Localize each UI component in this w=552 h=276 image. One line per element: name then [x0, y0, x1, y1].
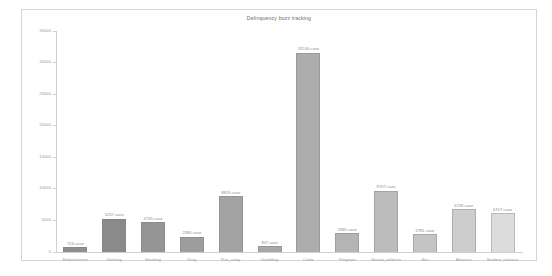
bar[interactable] [491, 213, 515, 252]
x-axis-label: Pregnant [328, 257, 367, 262]
bar-group[interactable]: 6157 case [491, 10, 515, 252]
bar-value-label: 6157 case [493, 207, 512, 212]
x-axis-label: Smoking [134, 257, 173, 262]
bar-group[interactable]: 907 case [258, 10, 282, 252]
bar-group[interactable]: 5237 case [102, 10, 126, 252]
y-tick-mark [53, 220, 56, 221]
bar-group[interactable]: 2390 case [180, 10, 204, 252]
y-tick-mark [53, 188, 56, 189]
y-tick-label: 10000 [39, 185, 51, 190]
chart-frame: Delinquency buzz tracking 05000100001500… [21, 9, 537, 261]
bar-value-label: 2390 case [182, 230, 201, 235]
bar-value-label: 2985 case [338, 227, 357, 232]
bar[interactable] [374, 191, 398, 252]
bar-group[interactable]: 9707 case [374, 10, 398, 252]
bar-value-label: 907 case [261, 240, 278, 245]
bar[interactable] [63, 247, 87, 252]
bar[interactable] [413, 234, 437, 252]
y-tick-mark [53, 125, 56, 126]
y-tick-label: 25000 [39, 91, 51, 96]
y-tick-label: 20000 [39, 122, 51, 127]
x-axis-label: Gambling [250, 257, 289, 262]
x-axis-label: Sex [406, 257, 445, 262]
bar-value-label: 4735 case [144, 216, 163, 221]
bar[interactable] [219, 196, 243, 252]
y-tick-label: 15000 [39, 154, 51, 159]
bar-group[interactable]: 2781 case [413, 10, 437, 252]
bar[interactable] [141, 222, 165, 252]
y-axis-line [56, 31, 57, 253]
y-tick-label: 5000 [42, 217, 51, 222]
y-tick-mark [53, 62, 56, 63]
x-axis-label: Crime [289, 257, 328, 262]
bar-group[interactable]: 726 case [63, 10, 87, 252]
bar[interactable] [258, 246, 282, 252]
bar-value-label: 726 case [67, 241, 84, 246]
y-tick-label: 30000 [39, 59, 51, 64]
bar[interactable] [102, 219, 126, 252]
x-axis-label: Entertainment [56, 257, 95, 262]
y-tick-label: 0 [49, 249, 51, 254]
x-axis-line [56, 252, 523, 253]
y-tick-mark [53, 31, 56, 32]
y-tick-mark [53, 94, 56, 95]
y-tick-mark [53, 252, 56, 253]
x-axis-label: Drinking [95, 257, 134, 262]
bar-group[interactable]: 31530 case [296, 10, 320, 252]
bar-group[interactable]: 8813 case [219, 10, 243, 252]
bar-value-label: 2781 case [415, 228, 434, 233]
x-axis-label: Absence [444, 257, 483, 262]
y-tick-label: 35000 [39, 28, 51, 33]
bar-value-label: 8813 case [221, 190, 240, 195]
bar[interactable] [180, 237, 204, 252]
x-axis-label: Sexual_violence [367, 257, 406, 262]
bar-value-label: 5237 case [105, 212, 124, 217]
bar-value-label: 6739 case [454, 203, 473, 208]
y-tick-mark [53, 157, 56, 158]
bar-group[interactable]: 2985 case [335, 10, 359, 252]
x-axis-label: Student_violence [483, 257, 522, 262]
bar-group[interactable]: 4735 case [141, 10, 165, 252]
bar-value-label: 9707 case [377, 184, 396, 189]
bar-group[interactable]: 6739 case [452, 10, 476, 252]
bar[interactable] [296, 53, 320, 252]
bar[interactable] [335, 233, 359, 252]
x-axis-label: Drug [173, 257, 212, 262]
bar-value-label: 31530 case [298, 46, 319, 51]
x-axis-label: Run_away [211, 257, 250, 262]
bar[interactable] [452, 209, 476, 252]
